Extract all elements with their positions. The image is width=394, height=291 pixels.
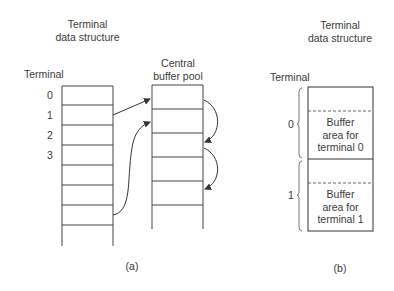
- row-label: 1: [44, 109, 56, 122]
- row-header-a: Terminal: [24, 68, 64, 81]
- row-label: 3: [44, 149, 56, 162]
- central-buffer-pool: [152, 85, 203, 229]
- title-line: data structure: [305, 32, 375, 45]
- row-header-b: Terminal: [270, 71, 310, 84]
- buffer-text-line: Buffer: [308, 116, 373, 129]
- buffer-area-terminal-1: Buffer area for terminal 1: [308, 188, 373, 226]
- title-line: Terminal: [305, 19, 375, 32]
- row-label: 1: [286, 189, 296, 202]
- pool-title: Central buffer pool: [145, 57, 211, 83]
- caption-a: (a): [122, 260, 142, 273]
- buffer-text-line: terminal 0: [308, 141, 373, 154]
- buffer-text-line: area for: [308, 129, 373, 142]
- buffer-text-line: Buffer: [308, 188, 373, 201]
- row-label: 0: [44, 89, 56, 102]
- chain-arrow-2: [204, 148, 218, 189]
- row-label: 0: [286, 118, 296, 131]
- panel-b-title: Terminal data structure: [305, 19, 375, 45]
- caption-b: (b): [330, 262, 350, 275]
- title-line: data structure: [55, 31, 120, 44]
- panel-a-title: Terminal data structure: [55, 18, 120, 44]
- brace-terminal-1: [297, 161, 302, 231]
- title-line: buffer pool: [145, 70, 211, 83]
- pointer-arrow-terminal-curve: [113, 122, 150, 215]
- buffer-text-line: area for: [308, 201, 373, 214]
- pointer-arrow-terminal1: [113, 99, 150, 115]
- row-label: 2: [44, 129, 56, 142]
- title-line: Terminal: [55, 18, 120, 31]
- buffer-area-terminal-0: Buffer area for terminal 0: [308, 116, 373, 154]
- title-line: Central: [145, 57, 211, 70]
- terminal-table-a: [62, 86, 113, 246]
- chain-arrow-1: [204, 100, 218, 142]
- buffer-text-line: terminal 1: [308, 213, 373, 226]
- brace-terminal-0: [297, 88, 302, 158]
